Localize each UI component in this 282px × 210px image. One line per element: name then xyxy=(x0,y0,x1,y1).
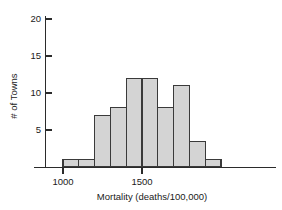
histogram-bar xyxy=(79,160,95,167)
histogram-chart: 5101520 10001500 # of Towns Mortality (d… xyxy=(0,0,282,210)
histogram-bar xyxy=(142,78,158,167)
y-axis-tick-label: 20 xyxy=(30,13,41,24)
histogram-bar xyxy=(205,160,221,167)
y-axis-tick-label: 10 xyxy=(30,87,41,98)
y-axis-title: # of Towns xyxy=(8,73,19,118)
x-axis-title: Mortality (deaths/100,000) xyxy=(97,191,207,202)
y-ticks-group: 5101520 xyxy=(30,13,52,135)
chart-canvas: 5101520 10001500 # of Towns Mortality (d… xyxy=(0,0,282,210)
bars-group xyxy=(63,78,221,167)
histogram-bar xyxy=(95,115,111,167)
y-axis-tick-label: 15 xyxy=(30,50,41,61)
histogram-bar xyxy=(110,108,126,167)
x-axis-tick-label: 1000 xyxy=(52,176,73,187)
y-axis-tick-label: 5 xyxy=(36,124,41,135)
histogram-bar xyxy=(189,142,205,167)
histogram-bar xyxy=(126,78,142,167)
histogram-bar xyxy=(174,86,190,167)
histogram-bar xyxy=(63,160,79,167)
x-ticks-group: 10001500 xyxy=(52,168,152,188)
x-axis-tick-label: 1500 xyxy=(131,176,152,187)
histogram-bar xyxy=(158,108,174,167)
plot-area: 5101520 10001500 # of Towns Mortality (d… xyxy=(0,0,282,210)
